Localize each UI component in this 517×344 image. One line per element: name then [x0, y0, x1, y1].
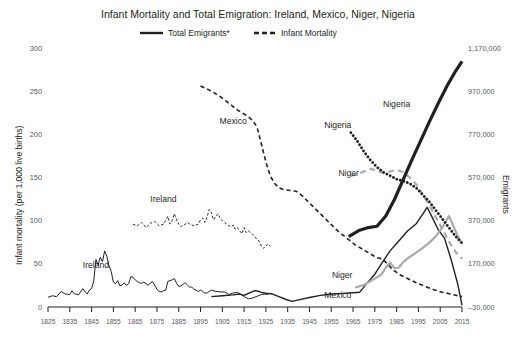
x-tick-label: 2015	[455, 318, 470, 325]
y-tick-label: 50	[34, 259, 42, 268]
y-tick-label: 0	[38, 303, 42, 312]
y-tick-label: 250	[30, 87, 42, 96]
y-tick-label: 100	[30, 216, 42, 225]
x-tick-label: 1955	[324, 318, 339, 325]
x-tick-label: 1875	[150, 318, 165, 325]
x-tick-label: 1975	[368, 318, 383, 325]
x-tick-label: 1845	[84, 318, 99, 325]
y2-tick-label: 370,000	[468, 216, 495, 225]
x-tick-label: 1895	[193, 318, 208, 325]
x-tick-label: 1905	[215, 318, 230, 325]
x-tick-label: 2005	[433, 318, 448, 325]
x-tick-label: 1885	[171, 318, 186, 325]
x-tick-label: 1825	[41, 318, 56, 325]
y-axis-title: Infant mortality (per 1,000 live births)	[14, 125, 24, 265]
x-tick-label: 1965	[346, 318, 361, 325]
y-tick-label: 200	[30, 130, 42, 139]
x-tick-label: 1915	[237, 318, 252, 325]
series-label-nigeria-emigrants: Nigeria	[383, 99, 410, 109]
series-label-mexico-emigrants: Mexico	[324, 290, 351, 300]
x-tick-label: 1835	[62, 318, 77, 325]
x-tick-label: 1925	[259, 318, 274, 325]
x-tick-label: 1865	[128, 318, 143, 325]
chart-background	[0, 0, 517, 344]
series-label-niger-emigrants: Niger	[332, 270, 353, 280]
x-tick-label: 1855	[106, 318, 121, 325]
x-tick-label: 1935	[280, 318, 295, 325]
y-tick-label: 150	[30, 173, 42, 182]
series-label-niger-mortality: Niger	[338, 168, 359, 178]
y2-tick-label: –30,000	[468, 303, 495, 312]
y-tick-label: 300	[30, 44, 42, 53]
y2-tick-label: 570,000	[468, 173, 495, 182]
series-label-ireland-emigrants: Ireland	[83, 260, 109, 270]
legend-label-emigrants: Total Emigrants*	[168, 28, 231, 38]
x-tick-label: 1995	[411, 318, 426, 325]
series-label-nigeria-mortality: Nigeria	[324, 120, 351, 130]
series-label-mexico-mortality: Mexico	[220, 116, 247, 126]
legend-label-mortality: Infant Mortality	[281, 28, 337, 38]
infant-mortality-emigration-chart: Infant Mortality and Total Emigration: I…	[0, 0, 517, 344]
y2-tick-label: 770,000	[468, 130, 495, 139]
y2-tick-label: 170,000	[468, 259, 495, 268]
page-title: Infant Mortality and Total Emigration: I…	[101, 8, 415, 20]
series-label-ireland-mortality: Ireland	[150, 194, 176, 204]
x-tick-label: 1945	[302, 318, 317, 325]
y2-tick-label: 970,000	[468, 87, 495, 96]
y2-axis-title: Emigrants	[501, 175, 511, 214]
y2-tick-label: 1,170,000	[468, 44, 501, 53]
x-tick-label: 1985	[389, 318, 404, 325]
